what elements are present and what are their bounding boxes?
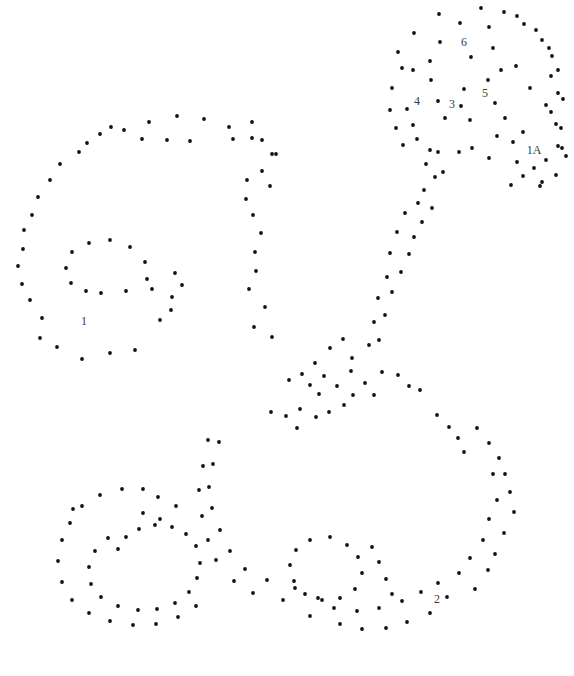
data-point	[407, 384, 411, 388]
data-point	[377, 338, 381, 342]
data-point	[70, 250, 74, 254]
data-point	[401, 143, 405, 147]
data-point	[428, 148, 432, 152]
data-point	[345, 543, 349, 547]
data-point	[502, 10, 506, 14]
data-point	[468, 118, 472, 122]
data-point	[468, 556, 472, 560]
data-point	[418, 388, 422, 392]
data-point	[549, 110, 553, 114]
data-point	[116, 547, 120, 551]
data-point	[116, 604, 120, 608]
data-point	[486, 78, 490, 82]
data-point	[328, 535, 332, 539]
data-point	[131, 623, 135, 627]
data-point	[210, 506, 214, 510]
data-point	[169, 308, 173, 312]
data-point	[554, 122, 558, 126]
data-point	[469, 55, 473, 59]
data-point	[293, 586, 297, 590]
data-point	[60, 580, 64, 584]
data-point	[411, 68, 415, 72]
data-point	[170, 525, 174, 529]
data-point	[503, 116, 507, 120]
point-label-1a: 1A	[527, 143, 542, 157]
data-point	[77, 150, 81, 154]
data-point	[521, 130, 525, 134]
data-point	[487, 517, 491, 521]
data-point	[377, 560, 381, 564]
data-point	[508, 490, 512, 494]
data-point	[491, 46, 495, 50]
data-point	[540, 38, 544, 42]
data-point	[491, 472, 495, 476]
data-point	[170, 295, 174, 299]
data-point	[481, 538, 485, 542]
data-point	[270, 335, 274, 339]
data-point	[194, 604, 198, 608]
data-point	[338, 596, 342, 600]
data-point	[412, 31, 416, 35]
data-point	[493, 101, 497, 105]
data-point	[308, 538, 312, 542]
data-point	[556, 91, 560, 95]
data-point	[556, 68, 560, 72]
data-point	[155, 607, 159, 611]
data-point	[549, 74, 553, 78]
data-point	[38, 336, 42, 340]
data-point	[244, 197, 248, 201]
data-point	[108, 619, 112, 623]
data-point	[288, 563, 292, 567]
data-point	[475, 426, 479, 430]
data-point	[332, 606, 336, 610]
data-point	[388, 251, 392, 255]
data-point	[269, 410, 273, 414]
data-point	[544, 103, 548, 107]
data-point	[124, 289, 128, 293]
data-point	[268, 184, 272, 188]
data-point	[512, 510, 516, 514]
data-point	[187, 590, 191, 594]
data-point	[556, 144, 560, 148]
data-point	[253, 250, 257, 254]
data-point	[231, 137, 235, 141]
data-point	[521, 174, 525, 178]
data-point	[195, 576, 199, 580]
data-point	[422, 188, 426, 192]
scatter-figure-canvas: 11A23456	[0, 0, 574, 676]
point-label-6: 6	[461, 35, 467, 49]
data-point	[284, 414, 288, 418]
data-point	[411, 123, 415, 127]
data-point	[252, 325, 256, 329]
data-point	[415, 137, 419, 141]
data-point	[499, 68, 503, 72]
data-point	[259, 231, 263, 235]
data-point	[436, 150, 440, 154]
data-point	[251, 591, 255, 595]
data-point	[136, 608, 140, 612]
data-point	[441, 170, 445, 174]
data-point	[400, 599, 404, 603]
data-point	[313, 361, 317, 365]
data-point	[342, 403, 346, 407]
data-point	[60, 538, 64, 542]
data-point	[328, 346, 332, 350]
data-point	[447, 425, 451, 429]
data-point	[564, 154, 568, 158]
data-point	[98, 132, 102, 136]
data-point	[243, 567, 247, 571]
data-point	[150, 287, 154, 291]
data-point	[380, 370, 384, 374]
data-point	[141, 511, 145, 515]
data-point	[473, 587, 477, 591]
data-point	[479, 6, 483, 10]
data-point	[36, 195, 40, 199]
data-point	[56, 559, 60, 563]
data-point	[201, 464, 205, 468]
data-point	[217, 440, 221, 444]
data-point	[320, 598, 324, 602]
data-point	[200, 514, 204, 518]
data-point	[400, 66, 404, 70]
data-point	[287, 378, 291, 382]
data-point	[211, 462, 215, 466]
